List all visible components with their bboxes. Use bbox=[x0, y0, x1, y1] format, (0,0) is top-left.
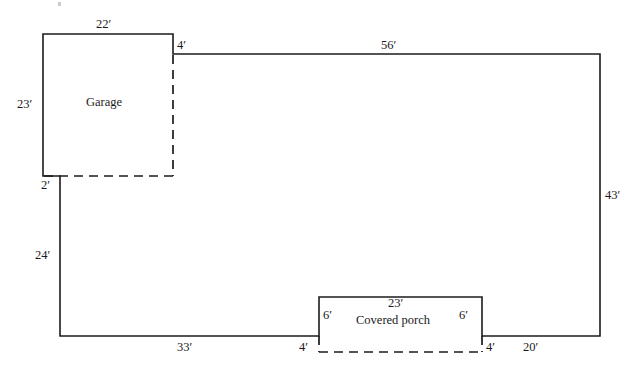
dimension-main-top: 56′ bbox=[381, 39, 396, 52]
dimension-porch-right-step: 4′ bbox=[486, 341, 495, 354]
dimension-garage-left: 23′ bbox=[17, 98, 32, 111]
room-label-covered-porch: Covered porch bbox=[356, 314, 430, 327]
floor-plan-diagram: 22′ 23′ 4′ 2′ 56′ 43′ 24′ 33′ 4′ 6′ 23′ … bbox=[0, 0, 640, 379]
dimension-porch-top: 23′ bbox=[388, 297, 403, 310]
dimension-left-lower: 24′ bbox=[35, 249, 50, 262]
dimension-porch-left-step: 4′ bbox=[299, 341, 308, 354]
dimension-garage-top: 22′ bbox=[96, 18, 111, 31]
dimension-bottom-right-run: 20′ bbox=[523, 341, 538, 354]
room-label-garage: Garage bbox=[86, 96, 122, 109]
dimension-garage-offset-top: 4′ bbox=[177, 39, 186, 52]
dimension-main-right: 43′ bbox=[605, 189, 620, 202]
floor-plan-svg bbox=[0, 0, 640, 379]
building-outline-path bbox=[43, 34, 600, 336]
dimension-porch-right-side: 6′ bbox=[459, 309, 468, 322]
dimension-bottom-left-run: 33′ bbox=[177, 341, 192, 354]
dimension-garage-offset-bottom: 2′ bbox=[41, 179, 50, 192]
dimension-porch-left-side: 6′ bbox=[323, 309, 332, 322]
